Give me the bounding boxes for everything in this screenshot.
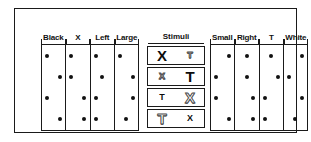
right-matrix-dot	[245, 75, 249, 79]
right-matrix-dot	[251, 96, 255, 100]
stimulus-box[interactable]: TX	[147, 88, 205, 107]
left-column-header-2: Left	[90, 31, 115, 44]
stimulus-glyph-t-large-black: T	[185, 69, 194, 84]
right-matrix-dot	[300, 54, 304, 58]
right-attribute-table: Small Right T White	[210, 31, 308, 131]
left-matrix-dot	[124, 117, 128, 121]
stimulus-slot-left: X	[148, 47, 176, 64]
stimulus-box[interactable]: XT	[147, 46, 205, 65]
left-matrix-dot	[69, 75, 73, 79]
right-matrix-dot	[300, 96, 304, 100]
right-table-header-row: Small Right T White	[210, 31, 308, 44]
left-matrix-dot	[100, 75, 104, 79]
figure-outer-frame: Black X Left Large Stimuli XTXTTXTX Smal…	[14, 8, 297, 133]
stimuli-title-rule	[148, 43, 204, 44]
left-matrix-dot	[69, 54, 73, 58]
stimulus-slot-right: X	[176, 89, 204, 106]
right-matrix-dot	[269, 54, 273, 58]
right-matrix-dot	[227, 117, 231, 121]
left-table-header-row: Black X Left Large	[41, 31, 139, 44]
stimulus-box[interactable]: TX	[147, 109, 205, 128]
left-matrix-dot	[94, 117, 98, 121]
stimulus-slot-right: X	[176, 110, 204, 127]
right-grid-column	[235, 45, 259, 130]
left-table-grid	[41, 44, 139, 131]
left-matrix-dot	[131, 96, 135, 100]
left-grid-column	[42, 45, 66, 130]
left-column-header-3: Large	[115, 31, 140, 44]
left-matrix-dot	[82, 96, 86, 100]
left-attribute-table: Black X Left Large	[41, 31, 139, 131]
left-column-header-0: Black	[41, 31, 66, 44]
stimulus-slot-right: T	[176, 47, 204, 64]
right-matrix-dot	[287, 75, 291, 79]
right-grid-column	[211, 45, 235, 130]
stimulus-slot-left: T	[148, 110, 176, 127]
left-matrix-dot	[94, 54, 98, 58]
right-matrix-dot	[214, 96, 218, 100]
stimuli-title: Stimuli	[146, 31, 206, 42]
stimulus-glyph-t-small-white: T	[187, 51, 193, 60]
right-matrix-dot	[214, 75, 218, 79]
left-matrix-dot	[131, 75, 135, 79]
stimuli-list: XTXTTXTX	[147, 46, 205, 130]
left-matrix-dot	[94, 96, 98, 100]
right-grid-column	[284, 45, 307, 130]
stimulus-glyph-x-small-white: X	[159, 72, 165, 81]
right-column-header-0: Small	[210, 31, 235, 44]
left-grid-column	[91, 45, 115, 130]
right-matrix-dot	[263, 117, 267, 121]
right-matrix-dot	[251, 117, 255, 121]
right-table-grid	[210, 44, 308, 131]
left-matrix-dot	[58, 75, 62, 79]
right-matrix-dot	[245, 54, 249, 58]
stimulus-glyph-t-large-white: T	[157, 111, 166, 126]
right-matrix-dot	[293, 117, 297, 121]
stimuli-panel: Stimuli XTXTTXTX	[146, 31, 206, 131]
left-matrix-dot	[58, 117, 62, 121]
right-column-header-2: T	[259, 31, 284, 44]
left-column-header-1: X	[66, 31, 91, 44]
right-column-header-1: Right	[235, 31, 260, 44]
stimulus-glyph-x-small-black: X	[187, 114, 193, 123]
left-matrix-dot	[82, 117, 86, 121]
stimulus-slot-right: T	[176, 68, 204, 85]
stimulus-box[interactable]: XT	[147, 67, 205, 86]
right-matrix-dot	[263, 96, 267, 100]
stimulus-slot-left: T	[148, 89, 176, 106]
stimulus-glyph-x-large-black: X	[157, 48, 167, 63]
stimulus-glyph-t-small-black: T	[159, 93, 165, 102]
left-matrix-dot	[118, 54, 122, 58]
left-grid-column	[66, 45, 90, 130]
right-column-header-3: White	[284, 31, 309, 44]
left-grid-column	[115, 45, 138, 130]
left-matrix-dot	[45, 96, 49, 100]
right-matrix-dot	[276, 75, 280, 79]
figure-container: Black X Left Large Stimuli XTXTTXTX Smal…	[0, 0, 311, 142]
stimulus-glyph-x-large-white: X	[185, 90, 195, 105]
right-grid-column	[260, 45, 284, 130]
stimulus-slot-left: X	[148, 68, 176, 85]
right-matrix-dot	[227, 54, 231, 58]
left-matrix-dot	[45, 54, 49, 58]
